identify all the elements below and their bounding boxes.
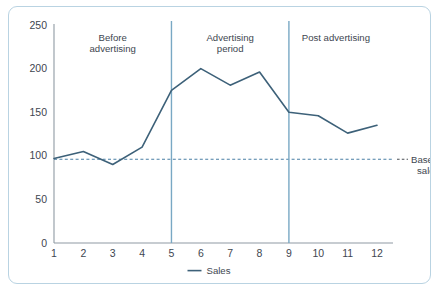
advertising-period-annotation-line1: Advertising [206,32,253,43]
x-axis-tick-label: 9 [286,247,292,259]
x-axis-tick-label: 2 [80,247,86,259]
x-axis-tick-label: 10 [312,247,324,259]
y-axis-tick-label: 100 [29,149,47,161]
baseline-label-line1: Base line [411,154,430,165]
y-axis-tick-label: 150 [29,106,47,118]
legend-label: Sales [207,265,231,276]
y-axis-tick-label: 50 [35,193,47,205]
figure-caption [10,289,430,302]
x-axis-tick-label: 3 [110,247,116,259]
y-axis-tick-label: 0 [41,237,47,249]
y-axis-tick-label: 200 [29,62,47,74]
x-axis-tick-label: 5 [169,247,175,259]
y-axis-tick-label: 250 [29,19,47,31]
before-advertising-annotation-line1: Before [99,32,127,43]
x-axis-tick-label: 6 [198,247,204,259]
post-advertising-annotation-line1: Post advertising [302,32,370,43]
x-axis-tick-label: 1 [51,247,57,259]
x-axis-tick-label: 12 [371,247,383,259]
before-advertising-annotation-line2: advertising [90,43,136,54]
advertising-period-annotation-line2: period [217,43,244,54]
x-axis-tick-label: 7 [227,247,233,259]
x-axis-tick-label: 11 [342,247,353,259]
sales-line-chart: 050100150200250123456789101112Base lines… [9,7,430,283]
x-axis-tick-label: 8 [257,247,263,259]
baseline-label-line2: sales [417,165,430,176]
x-axis-tick-label: 4 [139,247,145,259]
series-line-sales [54,69,377,165]
chart-figure-panel: 050100150200250123456789101112Base lines… [8,6,431,284]
